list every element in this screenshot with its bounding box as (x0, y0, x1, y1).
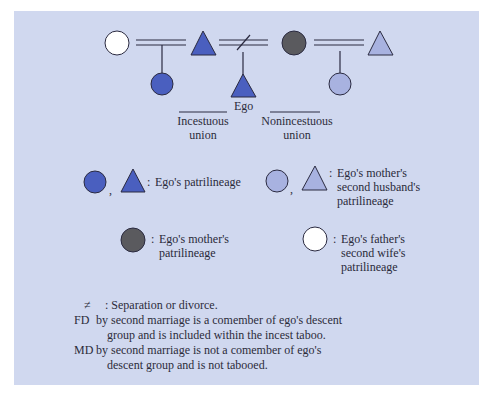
legend-comma: , (109, 183, 112, 197)
marriage-line-1 (136, 40, 186, 73)
legend-colon: : (329, 166, 332, 180)
legend-mother-patrilineage: Ego's mother's patrilineage (159, 232, 229, 260)
legend-comma: , (290, 182, 293, 196)
light-circle-icon (329, 73, 351, 95)
light-triangle-icon (368, 31, 393, 55)
nonincestuous-label-line1: Nonincestuous (252, 114, 342, 128)
blue-triangle-icon (191, 31, 216, 55)
marriage-line-2 (314, 40, 364, 73)
legend-father-second-wife: Ego's father's second wife's patrilineag… (341, 232, 405, 274)
legend-colon: : (333, 232, 336, 246)
ego-label: Ego (234, 99, 253, 113)
legend-dark-circle-icon (121, 228, 145, 252)
nonincestuous-label-line2: union (252, 128, 342, 142)
note-divorce-symbol: ≠ (84, 298, 91, 313)
white-circle-icon (105, 31, 129, 55)
incestuous-label-line1: Incestuous (163, 114, 243, 128)
dark-circle-icon (282, 31, 306, 55)
note-fd-text-cont: group and is included within the incest … (107, 328, 326, 343)
divorced-marriage-line (219, 35, 268, 76)
legend-colon: : (147, 175, 150, 189)
blue-circle-icon (151, 73, 173, 95)
note-md-prefix: MD (74, 343, 93, 358)
note-md-text: by second marriage is not a comember of … (96, 343, 321, 358)
note-fd-prefix: FD (74, 313, 89, 328)
note-md-text-cont: descent group and is not tabooed. (107, 358, 268, 373)
legend-blue-triangle-icon (121, 169, 145, 192)
incestuous-label: Incestuous union (163, 114, 243, 142)
nonincestuous-label: Nonincestuous union (252, 114, 342, 142)
legend-blue-circle-icon (84, 171, 106, 193)
legend-ego-patrilineage: Ego's patrilineage (155, 175, 241, 189)
legend-light-triangle-icon (302, 166, 327, 190)
legend-light-circle-icon (266, 170, 288, 192)
note-fd-text: by second marriage is a comember of ego'… (96, 313, 342, 328)
note-divorce-text: : Separation or divorce. (105, 298, 218, 313)
legend-colon: : (151, 232, 154, 246)
incestuous-label-line2: union (163, 128, 243, 142)
ego-triangle-icon (231, 74, 256, 97)
legend-mother-second-husband: Ego's mother's second husband's patrilin… (337, 166, 420, 208)
legend-white-circle-icon (303, 227, 327, 251)
